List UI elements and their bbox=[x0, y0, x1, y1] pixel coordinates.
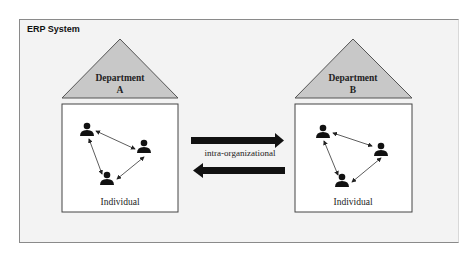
intra-organizational-label: intra-organizational bbox=[186, 148, 294, 158]
individual-a-label: Individual bbox=[62, 197, 178, 207]
right-arrow-icon bbox=[191, 133, 284, 148]
left-arrow-icon bbox=[193, 163, 285, 178]
department-b-box bbox=[295, 104, 412, 212]
department-b-letter: B bbox=[295, 84, 411, 96]
diagram-canvas bbox=[0, 0, 475, 258]
department-b-name: Department bbox=[295, 72, 411, 84]
department-a-label: Department A bbox=[62, 72, 178, 96]
department-a-letter: A bbox=[62, 84, 178, 96]
department-a-name: Department bbox=[62, 72, 178, 84]
department-a-box bbox=[62, 104, 178, 212]
department-b-label: Department B bbox=[295, 72, 411, 96]
individual-b-label: Individual bbox=[295, 197, 411, 207]
